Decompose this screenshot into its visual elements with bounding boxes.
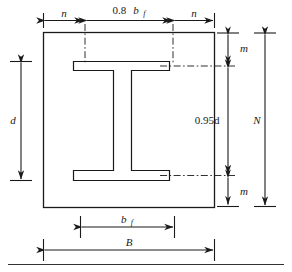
- label-08bf-symbol: b: [133, 4, 139, 16]
- label-n-left: n: [61, 7, 67, 19]
- label-n-right: n: [191, 7, 197, 19]
- label-d: d: [10, 114, 16, 126]
- label-m-bottom: m: [240, 185, 248, 197]
- wide-flange-section-outline: [74, 62, 170, 181]
- base-plate-diagram: n 0.8 b f n d m 0.95d m N b f B: [0, 0, 292, 272]
- label-08bf: 0.8 b f: [113, 0, 148, 18]
- label-08bf-fraction: 0.8: [113, 4, 127, 16]
- label-bf-bottom: b f: [121, 209, 135, 227]
- label-bf-bottom-subscript: f: [131, 218, 135, 227]
- label-08bf-subscript: f: [143, 9, 147, 18]
- diagram-canvas: n 0.8 b f n d m 0.95d m N b f B: [0, 0, 292, 272]
- label-B: B: [126, 236, 133, 248]
- label-bf-bottom-symbol: b: [121, 213, 127, 225]
- base-plate-outline: [44, 33, 215, 208]
- label-N: N: [252, 114, 261, 126]
- label-095d: 0.95d: [195, 114, 220, 126]
- label-m-top: m: [240, 42, 248, 54]
